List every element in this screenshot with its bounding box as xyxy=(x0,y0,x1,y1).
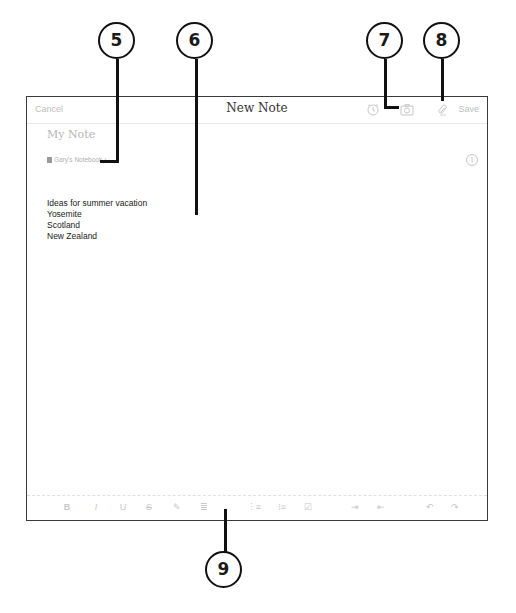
outdent-button[interactable]: ⇤ xyxy=(375,501,387,513)
redo-button[interactable]: ↷ xyxy=(449,501,461,513)
callout-9: 9 xyxy=(205,551,242,588)
body-line: Ideas for summer vacation xyxy=(47,198,147,209)
callout-7-leader-hook xyxy=(384,106,399,109)
callout-9-leader xyxy=(224,509,227,553)
bulleted-list-button[interactable]: ⁝≡ xyxy=(274,501,290,513)
body-line: Scotland xyxy=(47,220,147,231)
callout-8-leader xyxy=(441,59,444,101)
callout-5-leader-hook xyxy=(100,160,119,163)
underline-button[interactable]: U xyxy=(117,501,129,513)
numbered-list-button[interactable]: ⋮≡ xyxy=(246,501,262,513)
attachment-icon[interactable] xyxy=(436,103,450,116)
undo-button[interactable]: ↶ xyxy=(424,501,436,513)
notebook-selector[interactable]: Gary's Notebook › xyxy=(47,156,106,163)
align-button[interactable]: ≣ xyxy=(198,501,210,513)
callout-7: 7 xyxy=(366,22,403,59)
save-button[interactable]: Save xyxy=(458,104,479,114)
note-title-input[interactable]: My Note xyxy=(47,128,95,141)
alarm-clock-icon[interactable] xyxy=(366,103,380,116)
callout-5-leader xyxy=(116,59,119,163)
italic-button[interactable]: I xyxy=(90,501,102,513)
callout-6: 6 xyxy=(176,22,213,59)
highlight-button[interactable]: ✎ xyxy=(171,501,183,513)
strikethrough-button[interactable]: S xyxy=(143,501,155,513)
indent-button[interactable]: ⇥ xyxy=(349,501,361,513)
callout-7-leader xyxy=(384,59,387,109)
info-icon[interactable]: i xyxy=(466,154,478,166)
notebook-icon xyxy=(47,157,52,163)
note-body-editor[interactable]: Ideas for summer vacation Yosemite Scotl… xyxy=(47,198,147,242)
new-note-screen: Cancel New Note Save My Note Gary's Note… xyxy=(26,96,488,521)
camera-icon[interactable] xyxy=(400,103,414,116)
callout-8: 8 xyxy=(423,22,460,59)
bold-button[interactable]: B xyxy=(61,501,73,513)
checkbox-button[interactable]: ☑ xyxy=(302,501,314,513)
callout-6-leader xyxy=(195,59,198,215)
callout-5: 5 xyxy=(98,22,135,59)
body-line: New Zealand xyxy=(47,231,147,242)
body-line: Yosemite xyxy=(47,209,147,220)
page-title: New Note xyxy=(27,101,487,115)
formatting-toolbar: B I U S ✎ ≣ ⋮≡ ⁝≡ ☑ ⇥ ⇤ ↶ ↷ xyxy=(27,495,487,520)
navigation-bar: Cancel New Note Save xyxy=(27,97,487,124)
notebook-label: Gary's Notebook xyxy=(54,156,102,163)
